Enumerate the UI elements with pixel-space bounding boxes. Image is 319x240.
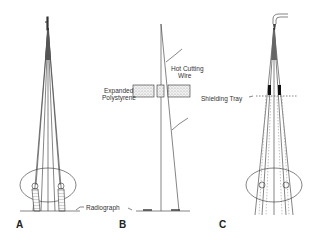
panel-label-c: C xyxy=(219,219,226,230)
panel-b-drawing xyxy=(128,24,190,211)
panel-label-a: A xyxy=(16,219,23,230)
radiation-source-a xyxy=(45,17,48,30)
polystyrene-block-center xyxy=(157,85,164,97)
applicator-tube xyxy=(273,14,288,24)
panel-a-drawing xyxy=(20,17,84,211)
shield-block-left xyxy=(268,85,271,95)
expanded-polystyrene-label-line2: Polystyrene xyxy=(102,94,136,101)
radiograph-label: Radiograph xyxy=(86,204,120,211)
shielding-tray-label: Shielding Tray xyxy=(201,95,242,102)
panel-label-b: B xyxy=(119,219,126,230)
polystyrene-block-right xyxy=(168,85,190,97)
hot-cutting-wire-label-line2: Wire xyxy=(178,72,191,79)
hot-cutting-wire-label-line1: Hot Cutting xyxy=(171,65,204,72)
panel-c-drawing xyxy=(246,14,302,215)
polystyrene-block-left xyxy=(133,85,154,97)
diagram-canvas xyxy=(0,0,319,240)
expanded-polystyrene-label-line1: Expanded xyxy=(104,87,133,94)
shield-block-right xyxy=(278,85,281,95)
